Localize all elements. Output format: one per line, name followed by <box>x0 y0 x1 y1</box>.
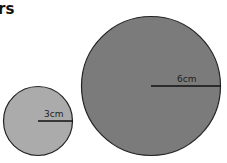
small-circle: 3cm <box>4 87 73 156</box>
large-circle: 6cm <box>82 17 221 156</box>
large-radius-label: 6cm <box>177 74 196 84</box>
small-radius-label: 3cm <box>44 109 63 119</box>
circles-diagram: 6cm 3cm <box>0 0 227 163</box>
